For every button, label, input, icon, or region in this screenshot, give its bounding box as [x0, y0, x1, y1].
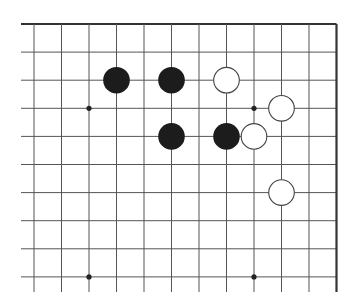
white-stone: [214, 67, 240, 93]
black-stone: [158, 67, 185, 94]
white-stone: [241, 124, 267, 150]
go-board: [0, 0, 359, 308]
star-point: [86, 106, 91, 111]
star-point: [251, 274, 256, 279]
black-stone: [103, 67, 130, 94]
black-stone: [158, 123, 185, 150]
white-stone: [269, 180, 295, 206]
star-point: [86, 274, 91, 279]
white-stone: [269, 96, 295, 122]
star-point: [251, 106, 256, 111]
board-grid: [21, 24, 337, 292]
black-stone: [213, 123, 240, 150]
